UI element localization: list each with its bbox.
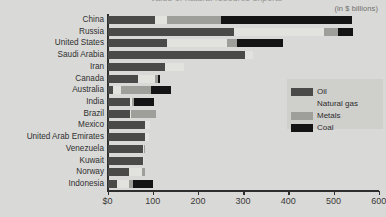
bar-segment-coal — [133, 180, 153, 188]
legend-item-coal[interactable]: Coal — [291, 118, 333, 127]
category-label: United States — [55, 38, 104, 48]
bar-row[interactable] — [108, 180, 153, 188]
x-axis-tick-label: $0 — [102, 196, 112, 206]
x-axis-tick-label: 200 — [190, 196, 205, 206]
bar-segment-coal — [134, 98, 154, 106]
category-label: China — [83, 15, 104, 25]
bar-row[interactable] — [108, 51, 253, 59]
bar-row[interactable] — [108, 86, 171, 94]
bar-segment-metals — [121, 86, 151, 94]
bar-segment-metals — [324, 28, 338, 36]
bar-segment-gas — [129, 168, 142, 176]
bar-segment-gas — [165, 63, 184, 71]
category-label: Kuwait — [79, 156, 104, 166]
category-label: Mexico — [78, 120, 104, 130]
x-axis-tick-label: 400 — [281, 196, 296, 206]
bar-segment-coal — [151, 86, 171, 94]
bar-segment-oil — [108, 110, 130, 118]
bar-segment-coal — [237, 39, 283, 47]
bar-segment-oil — [108, 39, 167, 47]
bar-segment-oil — [108, 63, 165, 71]
x-axis-tick-label: 600 — [371, 196, 386, 206]
legend-label-coal: Coal — [317, 123, 333, 132]
coal-swatch — [291, 124, 313, 132]
bar-segment-gas — [245, 51, 253, 59]
bar-row[interactable] — [108, 98, 154, 106]
bar-segment-coal — [158, 75, 160, 83]
bar-row[interactable] — [108, 168, 145, 176]
bar-row[interactable] — [108, 133, 149, 141]
bar-segment-oil — [108, 28, 234, 36]
x-axis-tick — [153, 191, 155, 195]
bar-segment-metals — [144, 145, 145, 153]
units-note: (in $ billions) — [334, 4, 378, 13]
x-axis-tick — [288, 191, 290, 195]
chart-legend: Oil Natural gas Metals Coal — [287, 79, 383, 129]
bar-segment-oil — [108, 145, 143, 153]
bar-segment-gas — [155, 16, 167, 24]
bar-segment-gas — [113, 86, 121, 94]
bar-segment-oil — [108, 51, 245, 59]
category-label: Norway — [76, 167, 104, 177]
bar-segment-oil — [108, 16, 155, 24]
bar-segment-oil — [108, 168, 129, 176]
x-axis-tick-label: 100 — [145, 196, 160, 206]
x-axis-tick-label: 500 — [326, 196, 341, 206]
legend-item-metals[interactable]: Metals — [291, 106, 341, 115]
x-axis-tick — [198, 191, 200, 195]
bar-row[interactable] — [108, 121, 150, 129]
bar-segment-oil — [108, 180, 117, 188]
bar-segment-oil — [108, 157, 143, 165]
bar-row[interactable] — [108, 28, 353, 36]
category-label: Iran — [90, 62, 104, 72]
bar-segment-coal — [338, 28, 353, 36]
category-label: Venezuela — [66, 144, 104, 154]
category-label: India — [86, 97, 104, 107]
bar-segment-oil — [108, 75, 138, 83]
bar-segment-oil — [108, 121, 145, 129]
category-label: Australia — [72, 85, 104, 95]
chart-title-strip: Value of natural resource exports — [0, 0, 386, 9]
bar-row[interactable] — [108, 16, 352, 24]
x-axis-tick-label: 300 — [236, 196, 251, 206]
category-label: Russia — [79, 27, 104, 37]
bar-segment-gas — [138, 75, 155, 83]
bar-segment-gas — [234, 28, 324, 36]
legend-item-oil[interactable]: Oil — [291, 82, 327, 91]
category-label: Indonesia — [68, 179, 104, 189]
x-axis-tick — [108, 191, 110, 195]
bar-row[interactable] — [108, 39, 283, 47]
bar-segment-metals — [131, 110, 156, 118]
bar-segment-gas — [145, 121, 150, 129]
category-label: Brazil — [84, 109, 104, 119]
category-label: Saudi Arabia — [58, 50, 104, 60]
bar-segment-coal — [221, 16, 352, 24]
bar-segment-metals — [142, 168, 145, 176]
x-axis-tick — [379, 191, 381, 195]
bar-row[interactable] — [108, 75, 160, 83]
bar-row[interactable] — [108, 110, 156, 118]
bar-segment-oil — [108, 133, 145, 141]
chart-root: Value of natural resource exports (in $ … — [0, 0, 386, 217]
bar-segment-metals — [167, 16, 221, 24]
bar-segment-gas — [117, 180, 129, 188]
legend-item-natural-gas[interactable]: Natural gas — [291, 94, 358, 103]
category-label: United Arab Emirates — [27, 132, 104, 142]
bar-segment-oil — [108, 98, 130, 106]
bar-segment-gas — [143, 157, 144, 165]
bar-segment-gas — [167, 39, 227, 47]
bar-row[interactable] — [108, 145, 145, 153]
bar-segment-gas — [145, 133, 149, 141]
bar-row[interactable] — [108, 63, 184, 71]
bar-segment-metals — [227, 39, 237, 47]
category-label: Canada — [75, 74, 104, 84]
x-axis-tick — [334, 191, 336, 195]
page-title: Value of natural resource exports — [150, 0, 282, 3]
bar-row[interactable] — [108, 157, 144, 165]
x-axis-tick — [243, 191, 245, 195]
category-labels: ChinaRussiaUnited StatesSaudi ArabiaIran… — [0, 14, 104, 190]
